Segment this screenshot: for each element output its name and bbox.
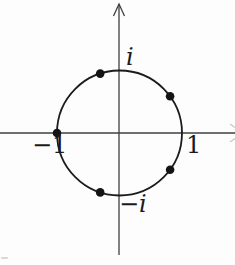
root-dot <box>96 69 105 78</box>
label-minus-i: −i <box>119 192 147 216</box>
scan-artifact <box>1 257 8 259</box>
complex-plane-unit-circle-figure: i −i 1 −1 <box>0 0 235 265</box>
label-minus-one: −1 <box>32 133 67 157</box>
label-one: 1 <box>186 133 201 157</box>
root-dot <box>166 92 175 101</box>
label-i: i <box>126 45 134 69</box>
root-dot <box>96 188 105 197</box>
root-dot <box>166 165 175 174</box>
x-axis-arrowhead-partial-mark <box>230 139 235 143</box>
x-axis-arrowhead-partial-mark <box>230 124 235 128</box>
